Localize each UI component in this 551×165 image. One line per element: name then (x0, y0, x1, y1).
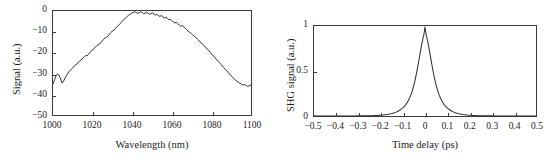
tick-mark (213, 112, 214, 115)
tick-mark (173, 112, 174, 115)
panel-autocorrelation: SHG signal (a.u.) −0.5−0.4−0.3−0.2−0.100… (275, 0, 551, 165)
tick-mark (53, 32, 56, 33)
x-tick-label: 0.1 (441, 122, 453, 132)
tick-mark (336, 113, 337, 116)
y-tick-label: 0.5 (275, 66, 308, 76)
autocorrelation-curve (314, 26, 536, 116)
x-tick-label: −0.5 (304, 122, 321, 132)
y-tick-label: −40 (0, 90, 47, 100)
tick-mark (314, 72, 317, 73)
x-tick-label: 0.4 (509, 122, 521, 132)
x-tick-label: 0.5 (531, 122, 543, 132)
x-tick-label: 1080 (203, 121, 222, 131)
tick-mark (426, 113, 427, 116)
panel-spectrum: Signal (a.u.) 100010201040106010801100 0… (0, 0, 275, 165)
y-tick-label: −20 (0, 48, 47, 58)
autocorrelation-x-axis-title: Time delay (ps) (392, 140, 458, 151)
tick-mark (448, 113, 449, 116)
spectrum-curve (53, 11, 251, 115)
tick-mark (471, 113, 472, 116)
tick-mark (53, 53, 56, 54)
x-tick-label: 0 (423, 122, 428, 132)
x-tick-label: 0.2 (464, 122, 476, 132)
y-tick-label: 1 (275, 20, 308, 30)
tick-mark (516, 113, 517, 116)
spectrum-plot-area (52, 10, 252, 116)
y-tick-label: −10 (0, 26, 47, 36)
y-tick-label: −30 (0, 69, 47, 79)
x-tick-label: 1100 (243, 121, 262, 131)
x-tick-label: −0.3 (349, 122, 366, 132)
y-tick-label: 0 (275, 112, 308, 122)
x-tick-label: 1000 (43, 121, 62, 131)
x-tick-label: −0.2 (372, 122, 389, 132)
autocorrelation-plot-area (313, 25, 537, 117)
x-tick-label: 1020 (83, 121, 102, 131)
spectrum-x-axis-title: Wavelength (nm) (116, 140, 189, 151)
tick-mark (404, 113, 405, 116)
x-tick-label: 1060 (163, 121, 182, 131)
tick-mark (381, 113, 382, 116)
x-tick-label: 1040 (123, 121, 142, 131)
y-tick-label: 0 (0, 5, 47, 15)
x-tick-label: −0.1 (394, 122, 411, 132)
y-tick-label: −50 (0, 111, 47, 121)
tick-mark (493, 113, 494, 116)
figure-two-panel: Signal (a.u.) 100010201040106010801100 0… (0, 0, 551, 165)
tick-mark (133, 112, 134, 115)
x-tick-label: 0.3 (486, 122, 498, 132)
x-tick-label: −0.4 (327, 122, 344, 132)
tick-mark (53, 75, 56, 76)
tick-mark (93, 112, 94, 115)
tick-mark (53, 96, 56, 97)
tick-mark (359, 113, 360, 116)
